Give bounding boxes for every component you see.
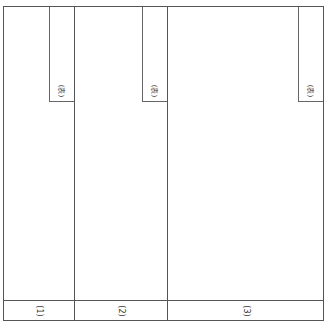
panel-2-tab-label: (表) bbox=[150, 85, 160, 97]
panel-1-tab: (表) bbox=[49, 7, 74, 102]
label-cell-2: (2) bbox=[75, 301, 168, 320]
panel-3-tab-label: (表) bbox=[306, 85, 316, 97]
panel-1-number-label: (1) bbox=[35, 305, 44, 316]
diagram-frame: (表) (表) (表) (1) (2) (3) bbox=[3, 6, 324, 321]
label-cell-1: (1) bbox=[4, 301, 75, 320]
label-cell-3: (3) bbox=[168, 301, 323, 320]
panel-3-number-label: (3) bbox=[241, 305, 250, 316]
panel-2-number-label: (2) bbox=[117, 305, 126, 316]
panel-1: (表) bbox=[4, 7, 75, 320]
panel-1-tab-label: (表) bbox=[57, 85, 67, 97]
panel-2-tab: (表) bbox=[142, 7, 167, 102]
label-row: (1) (2) (3) bbox=[4, 300, 323, 320]
panel-3-tab: (表) bbox=[298, 7, 323, 102]
panel-2: (表) bbox=[75, 7, 168, 320]
panel-3: (表) bbox=[168, 7, 323, 320]
